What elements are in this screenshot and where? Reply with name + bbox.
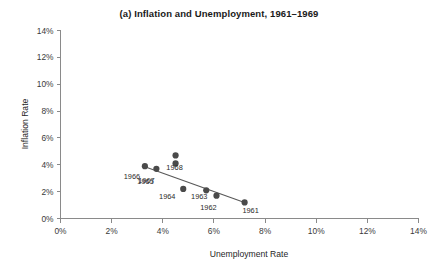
y-tick-label: 8% [41, 106, 54, 116]
point-label-1963: 1963 [191, 192, 207, 201]
data-point-1961 [242, 199, 248, 205]
point-label-1962: 1962 [200, 203, 216, 212]
y-tick-label: 12% [37, 52, 54, 62]
x-tick-label: 8% [259, 226, 272, 236]
y-tick-label: 2% [41, 187, 54, 197]
data-point-1962 [213, 193, 219, 199]
scatter-plot: 0%2%4%6%8%10%12%14% 0%2%4%6%8%10%12%14% … [0, 0, 438, 269]
point-label-1964: 1964 [159, 192, 175, 201]
data-point-1966 [142, 163, 148, 169]
data-point-1967 [153, 166, 159, 172]
y-tick-label: 10% [37, 79, 54, 89]
data-point-1968 [172, 152, 178, 158]
point-label-1967: 1967 [138, 176, 154, 185]
x-tick-label: 12% [359, 226, 376, 236]
y-tick-label: 0% [41, 214, 54, 224]
x-tick-label: 10% [308, 226, 325, 236]
x-tick-label: 2% [106, 226, 119, 236]
point-label-1961: 1961 [242, 206, 258, 215]
point-label-1968: 1968 [166, 163, 182, 172]
x-axis: 0%2%4%6%8%10%12%14% [54, 219, 427, 236]
x-tick-label: 4% [157, 226, 170, 236]
x-tick-label: 6% [208, 226, 221, 236]
y-tick-label: 6% [41, 133, 54, 143]
x-tick-label: 14% [410, 226, 427, 236]
data-point-1964 [180, 186, 186, 192]
x-tick-label: 0% [54, 226, 67, 236]
y-axis-title: Inflation Rate [20, 98, 30, 149]
y-axis: 0%2%4%6%8%10%12%14% [37, 26, 61, 224]
point-labels: 19611962196319641965196819661967 [124, 163, 259, 215]
chart-figure: (a) Inflation and Unemployment, 1961–196… [0, 0, 438, 269]
y-tick-label: 4% [41, 160, 54, 170]
y-tick-label: 14% [37, 26, 54, 36]
x-axis-title: Unemployment Rate [210, 249, 289, 259]
